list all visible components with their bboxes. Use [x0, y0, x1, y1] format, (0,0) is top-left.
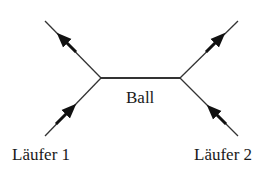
arrow-lower-right-icon: [212, 110, 226, 124]
label-laeufer-1: Läufer 1: [12, 145, 70, 165]
line-lower-left: [45, 78, 101, 136]
diagram-canvas: [0, 0, 269, 169]
line-lower-right: [180, 78, 238, 136]
arrow-upper-right-icon: [206, 38, 220, 52]
label-laeufer-2: Läufer 2: [194, 145, 252, 165]
arrow-upper-left-icon: [62, 38, 76, 52]
arrow-lower-left-icon: [56, 109, 71, 124]
label-ball: Ball: [126, 88, 154, 108]
